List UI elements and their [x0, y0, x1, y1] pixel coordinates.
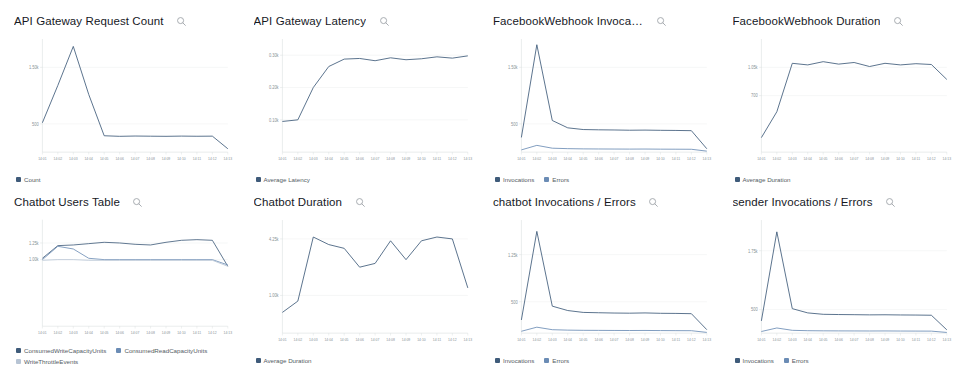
- legend-item[interactable]: Errors: [544, 175, 569, 184]
- svg-text:14:04: 14:04: [324, 338, 333, 342]
- chart-widget: API Gateway Latency0.10k0.20k0.30k14:011…: [244, 6, 484, 187]
- svg-text:14:10: 14:10: [656, 338, 664, 342]
- legend-item[interactable]: Invocations: [735, 356, 774, 365]
- search-icon[interactable]: [648, 196, 660, 208]
- svg-text:14:08: 14:08: [386, 157, 394, 161]
- svg-text:14:05: 14:05: [100, 331, 109, 335]
- search-icon[interactable]: [176, 15, 188, 27]
- svg-text:14:07: 14:07: [610, 338, 618, 342]
- legend-item[interactable]: Invocations: [495, 175, 534, 184]
- svg-text:14:05: 14:05: [579, 338, 587, 342]
- svg-text:14:10: 14:10: [177, 331, 186, 335]
- legend-swatch-icon: [544, 358, 549, 363]
- svg-text:500: 500: [511, 121, 518, 127]
- svg-text:14:11: 14:11: [672, 338, 680, 342]
- plot-area[interactable]: 5001.75k14:0114:0214:0314:0414:0514:0614…: [733, 213, 953, 352]
- svg-text:14:09: 14:09: [162, 331, 171, 335]
- legend-item[interactable]: Count: [16, 175, 41, 184]
- legend-swatch-icon: [256, 358, 261, 363]
- svg-text:14:01: 14:01: [517, 157, 525, 161]
- widget-title: sender Invocations / Errors: [733, 196, 873, 208]
- plot-area[interactable]: 1.00k4.25k14:0114:0214:0314:0414:0514:06…: [254, 213, 474, 352]
- legend-swatch-icon: [495, 358, 500, 363]
- svg-text:14:01: 14:01: [278, 338, 286, 342]
- plot-area[interactable]: 5001.50k14:0114:0214:0314:0414:0514:0614…: [14, 32, 234, 171]
- widget-header: Chatbot Duration: [254, 193, 474, 211]
- legend-item[interactable]: Average Duration: [735, 175, 791, 184]
- widget-header: chatbot Invocations / Errors: [493, 193, 713, 211]
- svg-text:500: 500: [511, 299, 518, 305]
- search-icon[interactable]: [885, 196, 897, 208]
- svg-text:1.05k: 1.05k: [747, 65, 757, 71]
- svg-text:14:08: 14:08: [625, 157, 633, 161]
- svg-text:14:06: 14:06: [355, 338, 363, 342]
- search-icon[interactable]: [655, 15, 667, 27]
- svg-text:14:04: 14:04: [84, 331, 93, 335]
- legend-label: Invocations: [503, 175, 534, 184]
- svg-text:500: 500: [32, 121, 39, 127]
- plot-area[interactable]: 5001.25k14:0114:0214:0314:0414:0514:0614…: [493, 213, 713, 352]
- widget-title: API Gateway Latency: [254, 15, 367, 27]
- search-icon[interactable]: [378, 15, 390, 27]
- legend-item[interactable]: ConsumedReadCapacityUnits: [116, 346, 207, 355]
- plot-area[interactable]: 5001.50k14:0114:0214:0314:0414:0514:0614…: [493, 32, 713, 171]
- plot-area[interactable]: 7001.05k14:0114:0214:0314:0414:0514:0614…: [733, 32, 953, 171]
- svg-text:14:02: 14:02: [293, 338, 301, 342]
- legend-label: ConsumedReadCapacityUnits: [124, 346, 207, 355]
- legend-label: Average Latency: [264, 175, 310, 184]
- svg-text:14:11: 14:11: [672, 157, 680, 161]
- svg-text:0.20k: 0.20k: [268, 85, 278, 91]
- svg-text:14:02: 14:02: [293, 157, 301, 161]
- svg-text:14:08: 14:08: [865, 338, 873, 342]
- legend-swatch-icon: [116, 348, 121, 353]
- svg-text:14:03: 14:03: [69, 157, 77, 161]
- chart-legend: Average Duration: [254, 352, 474, 366]
- widget-header: sender Invocations / Errors: [733, 193, 953, 211]
- svg-text:14:12: 14:12: [448, 157, 456, 161]
- search-icon[interactable]: [132, 196, 144, 208]
- legend-item[interactable]: WriteThrottleEvents: [16, 357, 78, 366]
- svg-text:14:10: 14:10: [896, 338, 904, 342]
- svg-text:14:13: 14:13: [703, 338, 711, 342]
- legend-swatch-icon: [16, 177, 21, 182]
- svg-text:14:06: 14:06: [594, 338, 602, 342]
- svg-text:14:06: 14:06: [355, 157, 363, 161]
- svg-text:14:12: 14:12: [927, 157, 935, 161]
- plot-area[interactable]: 1.00k1.25k14:0114:0214:0314:0414:0514:06…: [14, 213, 234, 344]
- legend-item[interactable]: Average Duration: [256, 356, 312, 365]
- svg-text:14:02: 14:02: [772, 338, 780, 342]
- svg-text:4.25k: 4.25k: [268, 236, 278, 242]
- svg-text:14:03: 14:03: [309, 157, 317, 161]
- svg-text:14:05: 14:05: [818, 338, 826, 342]
- svg-text:0.30k: 0.30k: [268, 53, 278, 59]
- svg-text:14:11: 14:11: [193, 331, 201, 335]
- svg-text:1.00k: 1.00k: [29, 257, 39, 262]
- widget-header: API Gateway Request Count: [14, 12, 234, 30]
- widget-header: API Gateway Latency: [254, 12, 474, 30]
- svg-text:14:10: 14:10: [417, 157, 425, 161]
- svg-text:14:02: 14:02: [54, 331, 63, 335]
- svg-text:14:13: 14:13: [224, 331, 233, 335]
- svg-text:14:01: 14:01: [757, 338, 765, 342]
- widget-title: FacebookWebhook Invocations / ...: [493, 15, 643, 27]
- legend-item[interactable]: Errors: [784, 356, 809, 365]
- search-icon[interactable]: [354, 196, 366, 208]
- legend-item[interactable]: ConsumedWriteCapacityUnits: [16, 346, 106, 355]
- legend-label: ConsumedWriteCapacityUnits: [24, 346, 106, 355]
- chart-legend: Average Duration: [733, 171, 953, 185]
- svg-text:1.50k: 1.50k: [29, 65, 39, 71]
- chart-legend: Average Latency: [254, 171, 474, 185]
- legend-item[interactable]: Errors: [544, 356, 569, 365]
- search-icon[interactable]: [892, 15, 904, 27]
- svg-text:14:13: 14:13: [224, 157, 232, 161]
- svg-text:14:10: 14:10: [417, 338, 425, 342]
- legend-item[interactable]: Average Latency: [256, 175, 310, 184]
- legend-item[interactable]: Invocations: [495, 356, 534, 365]
- legend-label: Average Duration: [264, 356, 312, 365]
- plot-area[interactable]: 0.10k0.20k0.30k14:0114:0214:0314:0414:05…: [254, 32, 474, 171]
- svg-text:14:07: 14:07: [610, 157, 618, 161]
- svg-text:14:12: 14:12: [208, 157, 216, 161]
- chart-legend: InvocationsErrors: [493, 352, 713, 366]
- widget-title: chatbot Invocations / Errors: [493, 196, 636, 208]
